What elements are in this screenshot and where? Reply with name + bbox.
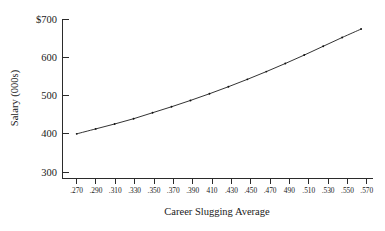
x-tick-marks — [77, 179, 367, 185]
x-tick-label-5: .370 — [167, 186, 180, 195]
x-tick-label-11: 490 — [284, 186, 295, 195]
data-point — [76, 133, 78, 135]
y-tick-label-400: 400 — [41, 128, 57, 139]
x-tick-label-3: .330 — [128, 186, 141, 195]
x-tick-label-13: .530 — [322, 186, 335, 195]
y-tick-label-600: 600 — [41, 52, 57, 63]
x-tick-label-1: .290 — [89, 186, 102, 195]
x-tick-label-12: .510 — [302, 186, 315, 195]
data-point — [341, 37, 343, 39]
x-tick-label-14: .550 — [341, 186, 354, 195]
y-tick-label-300: 300 — [41, 167, 57, 178]
data-point — [246, 78, 248, 80]
data-point — [152, 112, 154, 114]
x-tick-label-2: .310 — [109, 186, 122, 195]
y-tick-label-500: 500 — [41, 90, 57, 101]
x-tick-label-8: .430 — [225, 186, 238, 195]
data-point — [284, 63, 286, 65]
y-tick-marks — [63, 19, 69, 172]
x-tick-label-10: .470 — [264, 186, 277, 195]
x-tick-label-4: .350 — [148, 186, 161, 195]
x-tick-label-7: 410 — [206, 186, 217, 195]
salary-curve — [77, 29, 361, 134]
y-tick-label-700: $700 — [36, 14, 57, 25]
data-point — [227, 86, 229, 88]
x-tick-label-15: .570 — [360, 186, 373, 195]
x-tick-label-9: .450 — [244, 186, 257, 195]
data-point — [265, 71, 267, 73]
data-point — [322, 45, 324, 47]
data-point — [303, 54, 305, 56]
x-axis-title: Career Slugging Average — [164, 206, 270, 217]
data-point — [171, 106, 173, 108]
data-point — [360, 28, 362, 30]
data-point — [114, 123, 116, 125]
x-tick-label-6: .390 — [186, 186, 199, 195]
data-point — [190, 99, 192, 101]
chart-plot-area: $700 600 500 400 300 .270 .290 .310 — [0, 0, 385, 231]
y-axis-title: Salary (000s) — [9, 69, 21, 126]
data-point — [133, 118, 135, 120]
salary-data-points — [76, 28, 362, 135]
data-point — [208, 93, 210, 95]
chart-figure: $700 600 500 400 300 .270 .290 .310 — [0, 0, 385, 231]
data-point — [95, 128, 97, 130]
x-tick-label-0: .270 — [70, 186, 83, 195]
